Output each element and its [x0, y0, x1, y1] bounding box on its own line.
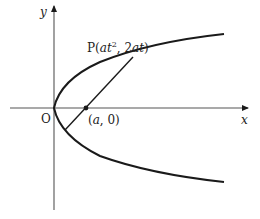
- y-axis-label: y: [39, 5, 47, 19]
- x-axis-label: x: [241, 113, 248, 127]
- origin-label: O: [41, 112, 51, 126]
- point-p-label: P(at2, 2at): [87, 40, 149, 55]
- focus-point: [84, 106, 89, 111]
- focus-label: (a, 0): [88, 113, 120, 127]
- parabola-diagram: y x O P(at2, 2at) (a, 0): [0, 0, 260, 219]
